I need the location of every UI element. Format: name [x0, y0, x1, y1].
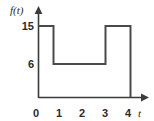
- x-tick-label-2: 2: [79, 107, 85, 119]
- x-tick-label-0: 0: [33, 107, 39, 119]
- x-axis-label: t: [138, 107, 142, 119]
- y-axis-label: f(t): [10, 4, 24, 17]
- y-tick-label-15: 15: [22, 20, 34, 32]
- step-function-curve: [39, 26, 131, 98]
- plot-canvas: f(t) t 15 6 0 1 2 3 4: [0, 0, 154, 121]
- y-tick-label-6: 6: [28, 58, 34, 70]
- x-tick-label-3: 3: [102, 107, 108, 119]
- y-axis-arrow-icon: [35, 6, 43, 14]
- x-tick-label-4: 4: [125, 107, 132, 119]
- x-axis-arrow-icon: [141, 94, 149, 102]
- x-tick-label-1: 1: [56, 107, 62, 119]
- step-function-figure: f(t) t 15 6 0 1 2 3 4: [0, 0, 154, 121]
